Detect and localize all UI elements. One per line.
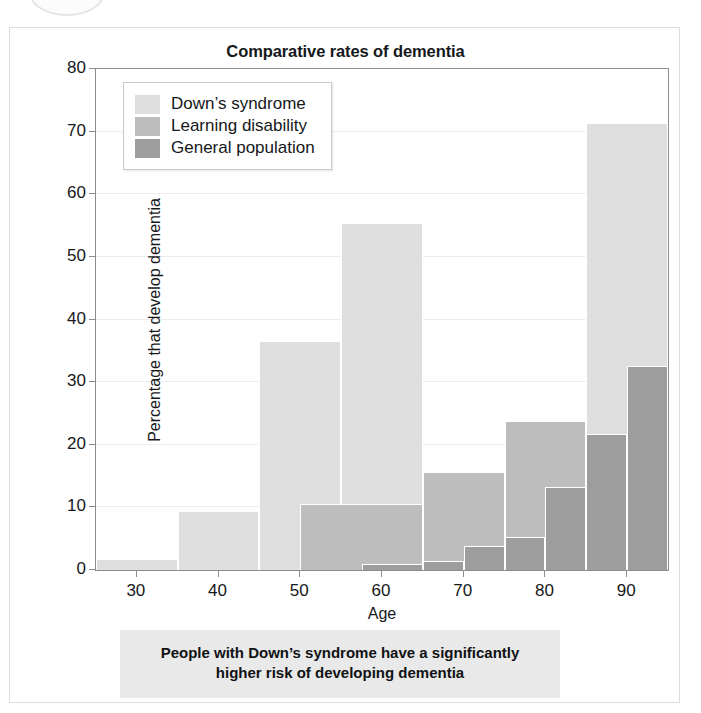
bar bbox=[96, 559, 178, 570]
x-axis-tick-label: 30 bbox=[126, 581, 145, 601]
x-axis-tick-mark bbox=[218, 571, 219, 577]
legend-label: Learning disability bbox=[171, 116, 307, 136]
caption-line-1: People with Down’s syndrome have a signi… bbox=[161, 644, 520, 661]
y-axis-tick-mark bbox=[89, 381, 95, 382]
legend-item: General population bbox=[135, 138, 315, 158]
bar bbox=[464, 546, 505, 570]
x-axis-tick-mark bbox=[299, 571, 300, 577]
legend-label: Down’s syndrome bbox=[171, 94, 306, 114]
y-axis-tick-mark bbox=[89, 256, 95, 257]
bar bbox=[178, 511, 260, 570]
x-axis-tick-mark bbox=[544, 571, 545, 577]
caption-line-2: higher risk of developing dementia bbox=[216, 664, 464, 681]
figure-caption: People with Down’s syndrome have a signi… bbox=[120, 630, 560, 698]
x-axis-tick-mark bbox=[136, 571, 137, 577]
page-decoration-circle bbox=[30, 0, 104, 16]
chart-legend: Down’s syndrome Learning disability Gene… bbox=[123, 82, 332, 170]
x-axis-tick-label: 80 bbox=[535, 581, 554, 601]
plot-wrapper: Percentage that develop dementia Age 010… bbox=[95, 68, 669, 571]
y-axis-tick-mark bbox=[89, 193, 95, 194]
y-axis-tick-mark bbox=[89, 569, 95, 570]
gridline bbox=[96, 68, 668, 69]
x-axis-label: Age bbox=[95, 605, 669, 623]
y-axis-tick-mark bbox=[89, 131, 95, 132]
y-axis-label: Percentage that develop dementia bbox=[146, 198, 164, 442]
legend-item: Down’s syndrome bbox=[135, 94, 315, 114]
x-axis-tick-mark bbox=[626, 571, 627, 577]
figure-frame: Comparative rates of dementia Percentage… bbox=[9, 27, 680, 703]
x-axis-tick-label: 40 bbox=[208, 581, 227, 601]
x-axis-tick-label: 90 bbox=[617, 581, 636, 601]
legend-swatch-downs-syndrome bbox=[135, 95, 160, 114]
legend-swatch-general-population bbox=[135, 139, 160, 158]
bar bbox=[627, 366, 668, 570]
legend-item: Learning disability bbox=[135, 116, 315, 136]
chart-title: Comparative rates of dementia bbox=[10, 42, 681, 61]
bar bbox=[545, 487, 586, 570]
y-axis-tick-mark bbox=[89, 319, 95, 320]
bar bbox=[505, 537, 546, 570]
x-axis-tick-mark bbox=[381, 571, 382, 577]
x-axis-tick-mark bbox=[463, 571, 464, 577]
bar bbox=[586, 434, 627, 570]
x-axis-tick-label: 70 bbox=[453, 581, 472, 601]
bar bbox=[300, 504, 423, 570]
bar bbox=[362, 564, 423, 570]
gridline bbox=[96, 193, 668, 194]
x-axis-tick-label: 50 bbox=[290, 581, 309, 601]
y-axis-tick-mark bbox=[89, 506, 95, 507]
y-axis-tick-mark bbox=[89, 68, 95, 69]
x-axis-tick-label: 60 bbox=[372, 581, 391, 601]
legend-label: General population bbox=[171, 138, 315, 158]
legend-swatch-learning-disability bbox=[135, 117, 160, 136]
y-axis-tick-mark bbox=[89, 444, 95, 445]
bar bbox=[423, 561, 464, 570]
